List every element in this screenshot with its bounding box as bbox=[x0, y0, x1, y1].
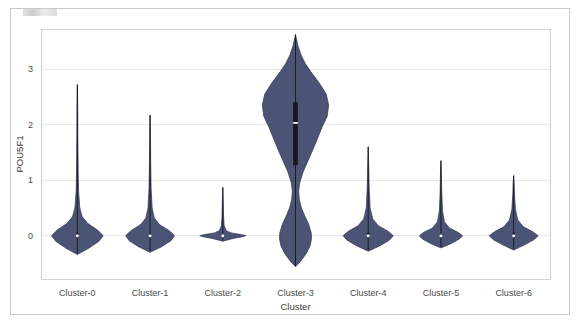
x-tick-label-cluster-1: Cluster-1 bbox=[132, 288, 169, 298]
x-axis-title: Cluster bbox=[280, 301, 310, 312]
y-tick-label: 1 bbox=[28, 175, 33, 185]
violin-cluster-1[interactable] bbox=[126, 115, 175, 252]
median-marker bbox=[367, 234, 370, 237]
violin-cluster-5[interactable] bbox=[419, 161, 462, 248]
y-tick-label: 2 bbox=[28, 120, 33, 130]
violin-plot[interactable]: 0123 Cluster-0Cluster-1Cluster-2Cluster-… bbox=[11, 9, 569, 314]
y-tick-label: 0 bbox=[28, 231, 33, 241]
violin-cluster-0[interactable] bbox=[52, 85, 104, 255]
median-marker bbox=[439, 234, 442, 237]
x-tick-label-cluster-0: Cluster-0 bbox=[59, 288, 96, 298]
y-axis-ticks: 0123 bbox=[28, 64, 33, 241]
x-tick-label-cluster-2: Cluster-2 bbox=[205, 288, 242, 298]
iqr-box bbox=[293, 102, 298, 165]
violin-cluster-4[interactable] bbox=[343, 147, 393, 251]
median-marker bbox=[512, 234, 515, 237]
x-tick-label-cluster-5: Cluster-5 bbox=[423, 288, 460, 298]
median-marker bbox=[221, 234, 224, 237]
median-marker bbox=[293, 122, 298, 124]
violin-cluster-6[interactable] bbox=[489, 176, 538, 250]
y-tick-label: 3 bbox=[28, 64, 33, 74]
median-marker bbox=[149, 234, 152, 237]
violin-cluster-2[interactable] bbox=[200, 187, 246, 241]
y-axis-title: POU5F1 bbox=[14, 136, 25, 173]
x-axis-ticks: Cluster-0Cluster-1Cluster-2Cluster-3Clus… bbox=[59, 288, 532, 298]
x-tick-label-cluster-4: Cluster-4 bbox=[350, 288, 387, 298]
axis-titles: ClusterPOU5F1 bbox=[14, 136, 311, 312]
median-marker bbox=[76, 234, 79, 237]
x-tick-label-cluster-6: Cluster-6 bbox=[495, 288, 532, 298]
figure-frame: 0123 Cluster-0Cluster-1Cluster-2Cluster-… bbox=[10, 8, 570, 315]
x-tick-label-cluster-3: Cluster-3 bbox=[277, 288, 314, 298]
